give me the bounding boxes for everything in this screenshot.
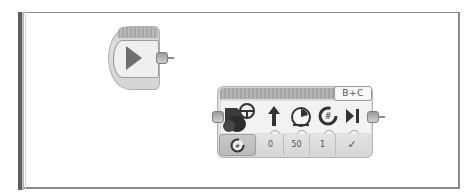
canvas-left-edge-shade <box>22 12 24 190</box>
steering-wheel-motor-icon <box>219 102 257 134</box>
start-block-header <box>118 27 158 38</box>
brake-value-field[interactable]: ✓ <box>336 134 368 155</box>
power-gauge-icon <box>289 104 313 128</box>
svg-text:#: # <box>325 112 332 121</box>
power-value-field[interactable]: 50 <box>284 134 310 155</box>
canvas-left-edge-highlight <box>25 12 26 190</box>
move-block-input-plug[interactable] <box>212 111 224 123</box>
start-block[interactable] <box>108 26 160 90</box>
move-steering-block[interactable]: B+C # # 0 50 1 ✓ <box>213 86 373 158</box>
move-block-plug-stem <box>378 116 385 118</box>
svg-text:#: # <box>235 142 240 149</box>
start-block-plug-stem <box>167 57 174 59</box>
steering-value-field[interactable]: 0 <box>258 134 284 155</box>
rotations-icon: # <box>229 137 246 154</box>
steering-arrow-icon <box>262 104 286 128</box>
brake-at-end-icon <box>341 104 365 128</box>
port-selector[interactable]: B+C <box>334 86 372 101</box>
mode-selector-button[interactable]: # <box>219 134 256 156</box>
parameter-fields: 0 50 1 ✓ <box>258 134 368 155</box>
rotations-value-field[interactable]: 1 <box>310 134 336 155</box>
rotations-count-icon: # <box>316 104 340 128</box>
play-icon <box>126 46 142 70</box>
